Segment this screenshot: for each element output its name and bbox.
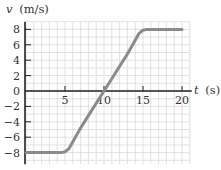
y-tick-label: 4: [13, 54, 20, 67]
y-tick-label: −2: [4, 100, 20, 113]
x-tick-label: 20: [175, 94, 189, 107]
y-tick-label: 6: [13, 39, 20, 52]
y-tick-label: 0: [13, 85, 20, 98]
y-axis-label: v (m/s): [6, 2, 49, 16]
x-tick-label: 5: [62, 94, 69, 107]
y-tick-label: −4: [4, 116, 20, 129]
grid: [26, 22, 190, 164]
y-tick-label: −6: [4, 131, 20, 144]
y-tick-label: 8: [13, 23, 20, 36]
x-axis-label: t (s): [194, 83, 220, 97]
x-tick-label: 15: [136, 94, 150, 107]
y-tick-label: −8: [4, 147, 20, 160]
y-tick-label: 2: [13, 70, 20, 83]
velocity-time-chart: 86420−2−4−6−85101520 v (m/s) t (s): [0, 0, 221, 170]
